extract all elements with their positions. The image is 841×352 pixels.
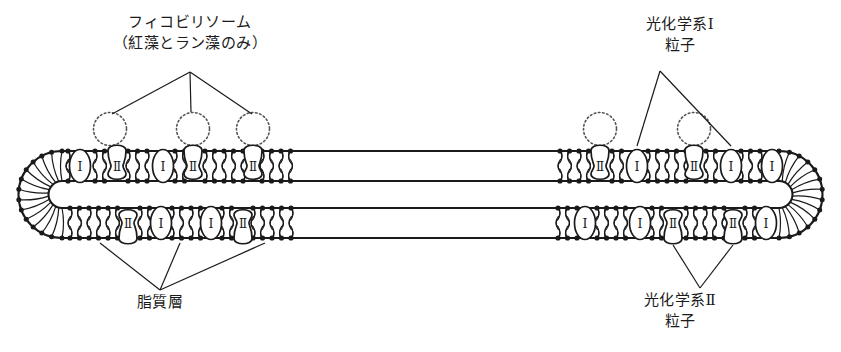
lipid-tail: [203, 151, 207, 181]
lipid-tail: [660, 208, 664, 238]
lipid-tail: [78, 208, 82, 238]
lipid-tail: [788, 205, 808, 227]
lipid-tail: [620, 151, 624, 181]
phycobilisome: [678, 113, 711, 146]
particle-label: Ⅰ: [209, 216, 214, 231]
lipid-tail: [68, 208, 72, 238]
particle-label: Ⅰ: [638, 216, 643, 231]
lipid-tail: [614, 208, 618, 238]
lipid-tail: [230, 208, 234, 238]
label-phycobilisome-line1: フィコビリソーム: [128, 13, 251, 31]
membrane-cap-inner: [779, 181, 793, 208]
particle-label: Ⅰ: [729, 159, 734, 174]
lipid-tail: [42, 156, 56, 183]
phycobilisome: [177, 113, 210, 146]
phycobilisome: [237, 113, 270, 146]
lipid-tail: [656, 151, 660, 181]
lipid-tail: [232, 151, 236, 181]
lipid-tail: [138, 208, 142, 238]
lipid-tail: [189, 208, 193, 238]
lipid-tail: [61, 151, 63, 181]
phycobilisome: [584, 113, 617, 146]
lipid-tail: [289, 151, 293, 181]
particle-label: Ⅰ: [635, 159, 640, 174]
lipid-tail: [261, 208, 265, 238]
lipid-tail: [136, 151, 140, 181]
lipid-tail: [566, 208, 570, 238]
particle-label: Ⅰ: [159, 216, 164, 231]
lipid-tail: [93, 151, 97, 181]
leader-line: [673, 245, 700, 288]
label-photosystem-1-line1: 光化学系Ⅰ: [646, 15, 714, 33]
lipid-tail: [106, 208, 110, 238]
phycobilisome: [94, 113, 127, 146]
particle-label: Ⅱ: [669, 217, 677, 231]
particle-label: Ⅰ: [78, 159, 83, 174]
lipid-tail: [713, 208, 717, 238]
particle-label: Ⅱ: [189, 160, 197, 174]
lipid-tail: [556, 208, 560, 238]
leader-line: [190, 72, 252, 114]
particle-label: Ⅰ: [764, 216, 769, 231]
lipid-tail: [103, 151, 107, 181]
label-photosystem-2-line1: 光化学系Ⅱ: [644, 291, 716, 309]
lipid-tail: [779, 208, 781, 238]
leader-line: [160, 243, 265, 290]
lipid-tail: [62, 208, 64, 238]
lipid-tail: [52, 208, 59, 237]
lipid-tail: [222, 151, 226, 181]
lipid-tail: [684, 208, 688, 238]
lipid-tail: [270, 151, 274, 181]
leader-line: [100, 243, 160, 290]
particle-label: Ⅱ: [729, 217, 737, 231]
label-lipid-layer-line1: 脂質層: [137, 293, 183, 311]
lipid-tail: [785, 206, 799, 233]
particle-label: Ⅱ: [690, 160, 698, 174]
label-phycobilisome: フィコビリソーム （紅藻とラン藻のみ）: [0, 12, 380, 54]
lipid-tail: [97, 208, 101, 238]
lipid-tail: [714, 151, 718, 181]
lipid-tail: [610, 151, 614, 181]
lipid-tail: [792, 179, 820, 190]
label-lipid-layer: 脂質層: [0, 292, 320, 313]
lipid-tail: [280, 208, 284, 238]
particle-label: Ⅰ: [770, 159, 775, 174]
lipid-tail: [605, 208, 609, 238]
lipid-tail: [624, 208, 628, 238]
lipid-tail: [675, 151, 679, 181]
particle-label: Ⅱ: [124, 217, 132, 231]
lipid-tail: [126, 151, 130, 181]
lipid-tail: [21, 199, 49, 210]
lipid-tail: [213, 151, 217, 181]
label-phycobilisome-line2: （紅藻とラン藻のみ）: [0, 33, 380, 54]
label-photosystem-2: 光化学系Ⅱ 粒子: [520, 290, 840, 332]
leader-line: [112, 72, 190, 114]
particle-label: Ⅱ: [249, 160, 257, 174]
lipid-tail: [577, 151, 581, 181]
particle-label: Ⅱ: [113, 160, 121, 174]
lipid-tail: [289, 208, 293, 238]
particle-label: Ⅰ: [161, 159, 166, 174]
lipid-tail: [180, 208, 184, 238]
lipid-tail: [694, 208, 698, 238]
lipid-tail: [788, 162, 808, 184]
leader-line: [637, 71, 660, 146]
lipid-tail: [52, 152, 59, 181]
particle-label: Ⅰ: [583, 216, 588, 231]
label-photosystem-1: 光化学系Ⅰ 粒子: [520, 14, 840, 56]
leader-line: [660, 71, 731, 146]
lipid-tail: [587, 151, 591, 181]
lipid-tail: [703, 208, 707, 238]
lipid-tail: [33, 162, 53, 184]
label-photosystem-1-line2: 粒子: [520, 35, 840, 56]
lipid-tail: [743, 208, 747, 238]
lipid-tail: [749, 151, 753, 181]
leader-line: [190, 72, 191, 112]
lipid-tail: [792, 196, 822, 200]
lipid-tail: [704, 151, 708, 181]
lipid-tail: [279, 151, 283, 181]
particle-label: Ⅱ: [596, 160, 604, 174]
label-photosystem-2-line2: 粒子: [520, 311, 840, 332]
lipid-tail: [558, 151, 562, 181]
membrane-cap-inner: [49, 181, 63, 208]
